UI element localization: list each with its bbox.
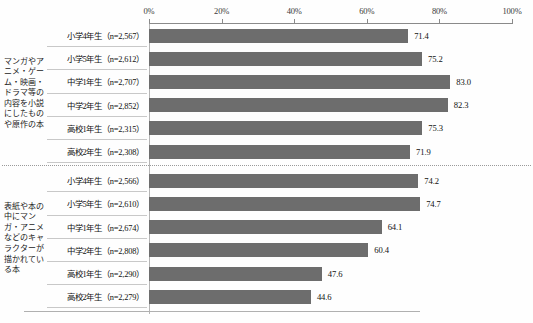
bar-track: 75.2 xyxy=(149,47,533,70)
row-label-cell: 中学2年生（n=2,852） xyxy=(47,94,147,117)
bottom-rule xyxy=(24,311,420,312)
bar-track: 71.4 xyxy=(149,24,533,47)
row-category-label: 高校1年生（n=2,315） xyxy=(67,122,144,134)
bar xyxy=(149,267,322,281)
bar-track: 75.3 xyxy=(149,117,533,140)
row-label-cell: 中学1年生（n=2,674） xyxy=(47,216,147,239)
chart-row: 中学1年生（n=2,707）83.0 xyxy=(0,70,533,93)
row-label-cell: 高校1年生（n=2,290） xyxy=(47,262,147,285)
chart-row: 高校2年生（n=2,308）71.9 xyxy=(0,140,533,163)
bar-track: 60.4 xyxy=(149,239,533,262)
x-axis-tick-label: 100% xyxy=(502,6,521,16)
x-axis-tick-label: 0% xyxy=(144,6,155,16)
plot-area: マンガやアニメ・ゲーム・映画・ドラマ等の内容を小説にしたものや原作の本小学4年生… xyxy=(0,24,533,314)
row-category-label: 小学5年生（n=2,612） xyxy=(67,52,144,64)
bar-track: 83.0 xyxy=(149,70,533,93)
bar-value-label: 64.1 xyxy=(388,222,403,232)
bar xyxy=(149,145,410,159)
bar-value-label: 82.3 xyxy=(454,100,469,110)
row-category-label: 中学1年生（n=2,707） xyxy=(67,75,144,87)
bar xyxy=(149,98,448,112)
row-category-label: 中学1年生（n=2,674） xyxy=(67,221,144,233)
row-label-cell: 中学2年生（n=2,808） xyxy=(47,239,147,262)
row-label-cell: 小学5年生（n=2,612） xyxy=(47,47,147,70)
bar-track: 47.6 xyxy=(149,262,533,285)
chart-row: 中学2年生（n=2,852）82.3 xyxy=(0,94,533,117)
chart-row: 中学2年生（n=2,808）60.4 xyxy=(0,239,533,262)
chart-row: 小学5年生（n=2,612）75.2 xyxy=(0,47,533,70)
bar-value-label: 74.2 xyxy=(424,176,439,186)
x-axis-tick-label: 60% xyxy=(359,6,374,16)
bar xyxy=(149,29,408,43)
bar xyxy=(149,174,418,188)
row-category-label: 中学2年生（n=2,808） xyxy=(67,244,144,256)
row-label-cell: 高校2年生（n=2,308） xyxy=(47,140,147,163)
chart-row: 小学4年生（n=2,567）71.4 xyxy=(0,24,533,47)
bar xyxy=(149,197,420,211)
bar xyxy=(149,121,422,135)
bar xyxy=(149,220,382,234)
row-label-cell: 高校1年生（n=2,315） xyxy=(47,117,147,140)
bar-chart-figure: 0%20%40%60%80%100% マンガやアニメ・ゲーム・映画・ドラマ等の内… xyxy=(0,0,533,323)
row-label-cell: 高校2年生（n=2,279） xyxy=(47,285,147,308)
row-label-cell: 小学4年生（n=2,566） xyxy=(47,169,147,192)
bar-track: 71.9 xyxy=(149,140,533,163)
bar-value-label: 75.3 xyxy=(428,123,443,133)
bar-value-label: 71.9 xyxy=(416,147,431,157)
bar xyxy=(149,290,311,304)
bar-value-label: 71.4 xyxy=(414,31,429,41)
row-category-label: 高校2年生（n=2,279） xyxy=(67,290,144,302)
bar xyxy=(149,75,450,89)
bar-value-label: 75.2 xyxy=(428,54,443,64)
bar-value-label: 47.6 xyxy=(328,269,343,279)
row-category-label: 小学4年生（n=2,566） xyxy=(67,174,144,186)
bar-value-label: 60.4 xyxy=(374,245,389,255)
chart-group: 表紙や本の中にマンガ・アニメなどのキャラクターが描かれている本小学4年生（n=2… xyxy=(0,169,533,308)
bar-track: 64.1 xyxy=(149,216,533,239)
x-axis-tick-label: 20% xyxy=(214,6,229,16)
row-label-cell: 小学5年生（n=2,610） xyxy=(47,192,147,215)
chart-row: 高校1年生（n=2,290）47.6 xyxy=(0,262,533,285)
row-category-label: 高校2年生（n=2,308） xyxy=(67,145,144,157)
row-category-label: 中学2年生（n=2,852） xyxy=(67,99,144,111)
row-label-cell: 中学1年生（n=2,707） xyxy=(47,70,147,93)
chart-row: 高校1年生（n=2,315）75.3 xyxy=(0,117,533,140)
chart-row: 高校2年生（n=2,279）44.6 xyxy=(0,285,533,308)
chart-row: 小学5年生（n=2,610）74.7 xyxy=(0,192,533,215)
bar xyxy=(149,52,422,66)
chart-row: 小学4年生（n=2,566）74.2 xyxy=(0,169,533,192)
bar-track: 82.3 xyxy=(149,94,533,117)
chart-row: 中学1年生（n=2,674）64.1 xyxy=(0,216,533,239)
bar-value-label: 83.0 xyxy=(456,77,471,87)
x-axis-tick-label: 40% xyxy=(287,6,302,16)
bar-track: 44.6 xyxy=(149,285,533,308)
x-axis-tick-label: 80% xyxy=(432,6,447,16)
row-category-label: 小学5年生（n=2,610） xyxy=(67,197,144,209)
row-category-label: 小学4年生（n=2,567） xyxy=(67,29,144,41)
bar-value-label: 74.7 xyxy=(426,199,441,209)
bar-track: 74.2 xyxy=(149,169,533,192)
row-label-cell: 小学4年生（n=2,567） xyxy=(47,24,147,47)
row-category-label: 高校1年生（n=2,290） xyxy=(67,267,144,279)
x-axis: 0%20%40%60%80%100% xyxy=(0,0,533,24)
group-divider xyxy=(2,165,531,166)
bar-value-label: 44.6 xyxy=(317,292,332,302)
bar-track: 74.7 xyxy=(149,192,533,215)
chart-group: マンガやアニメ・ゲーム・映画・ドラマ等の内容を小説にしたものや原作の本小学4年生… xyxy=(0,24,533,163)
bar xyxy=(149,243,368,257)
